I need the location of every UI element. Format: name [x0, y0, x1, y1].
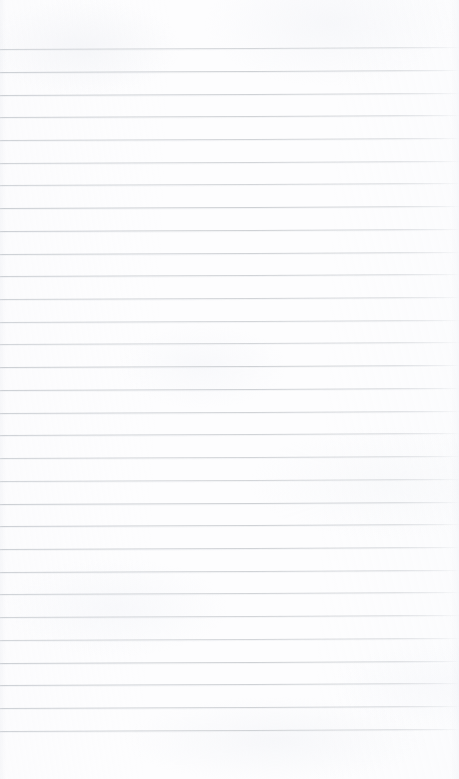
rule-line — [0, 138, 459, 141]
rule-line — [0, 47, 459, 50]
rule-line — [0, 365, 459, 368]
rule-line — [0, 251, 459, 254]
rule-line — [0, 411, 459, 414]
rule-line — [0, 638, 459, 641]
rule-line — [0, 592, 459, 595]
rule-line — [0, 706, 459, 709]
rule-line — [0, 479, 459, 482]
scanned-notebook-page — [0, 0, 459, 779]
rule-line — [0, 524, 459, 527]
rule-line — [0, 70, 459, 73]
rule-line — [0, 342, 459, 345]
rule-line — [0, 570, 459, 573]
rule-line — [0, 683, 459, 686]
rule-line — [0, 229, 459, 232]
rule-line — [0, 729, 459, 732]
rule-line — [0, 297, 459, 300]
scan-edge-vignette — [0, 0, 459, 779]
ruled-lines-layer — [0, 0, 459, 779]
rule-line — [0, 501, 459, 504]
rule-line — [0, 456, 459, 459]
rule-line — [0, 433, 459, 436]
rule-line — [0, 115, 459, 118]
rule-line — [0, 547, 459, 550]
rule-line — [0, 615, 459, 618]
rule-line — [0, 92, 459, 95]
rule-line — [0, 206, 459, 209]
rule-line — [0, 274, 459, 277]
rule-line — [0, 388, 459, 391]
rule-line — [0, 183, 459, 186]
rule-line — [0, 161, 459, 164]
paper-texture — [0, 0, 459, 779]
rule-line — [0, 320, 459, 323]
rule-line — [0, 661, 459, 664]
